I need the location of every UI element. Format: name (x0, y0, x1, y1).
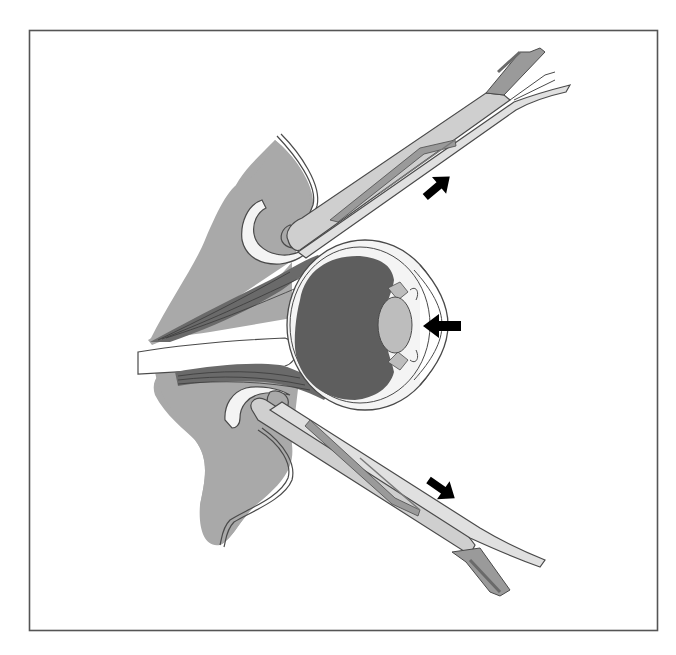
lens (378, 297, 412, 353)
eye-forceps-diagram (0, 0, 676, 655)
